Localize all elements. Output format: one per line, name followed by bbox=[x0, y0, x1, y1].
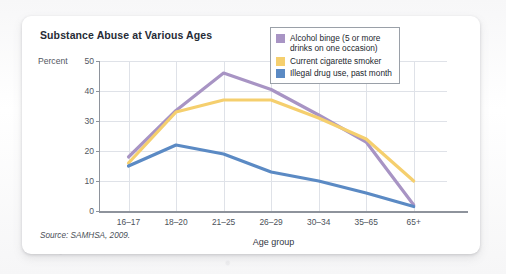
page-background: Substance Abuse at Various Ages Percent … bbox=[0, 0, 506, 274]
x-tick-label: 26–29 bbox=[259, 217, 282, 227]
legend-item[interactable]: Illegal drug use, past month bbox=[276, 68, 392, 78]
y-tick-mark bbox=[96, 151, 99, 152]
legend-swatch-icon bbox=[276, 34, 285, 43]
y-tick-label: 20 bbox=[84, 146, 94, 156]
y-tick-mark bbox=[96, 211, 99, 212]
x-tick-label: 18–20 bbox=[164, 217, 187, 227]
legend-item[interactable]: Current cigarette smoker bbox=[276, 56, 392, 66]
page-title: Substance Abuse at Various Ages bbox=[40, 29, 212, 41]
series-line bbox=[129, 73, 414, 205]
x-tick-label: 21–25 bbox=[212, 217, 235, 227]
legend-label: Current cigarette smoker bbox=[290, 56, 381, 66]
chart-card: Substance Abuse at Various Ages Percent … bbox=[22, 16, 480, 254]
y-tick-label: 40 bbox=[84, 86, 94, 96]
y-tick-label: 0 bbox=[89, 206, 94, 216]
y-tick-label: 30 bbox=[84, 116, 94, 126]
x-tick-label: 65+ bbox=[407, 217, 421, 227]
y-tick-mark bbox=[96, 61, 99, 62]
y-axis-label: Percent bbox=[38, 56, 68, 66]
legend-label: Alcohol binge (5 or more drinks on one o… bbox=[290, 33, 380, 53]
series-line bbox=[129, 100, 414, 181]
y-tick-mark bbox=[96, 121, 99, 122]
legend-label: Illegal drug use, past month bbox=[290, 68, 392, 78]
legend-swatch-icon bbox=[276, 69, 285, 78]
legend-item[interactable]: Alcohol binge (5 or more drinks on one o… bbox=[276, 33, 392, 53]
y-tick-label: 50 bbox=[84, 56, 94, 66]
x-tick-label: 16–17 bbox=[117, 217, 140, 227]
y-tick-mark bbox=[96, 91, 99, 92]
x-tick-label: 35–65 bbox=[355, 217, 378, 227]
x-axis-title: Age group bbox=[100, 237, 447, 247]
source-note: Source: SAMHSA, 2009. bbox=[40, 231, 130, 240]
legend-swatch-icon bbox=[276, 57, 285, 66]
x-tick-label: 30–34 bbox=[307, 217, 330, 227]
series-line bbox=[129, 145, 414, 207]
y-tick-mark bbox=[96, 181, 99, 182]
chart-legend: Alcohol binge (5 or more drinks on one o… bbox=[270, 27, 400, 84]
y-tick-label: 10 bbox=[84, 176, 94, 186]
x-axis-line bbox=[99, 211, 468, 213]
